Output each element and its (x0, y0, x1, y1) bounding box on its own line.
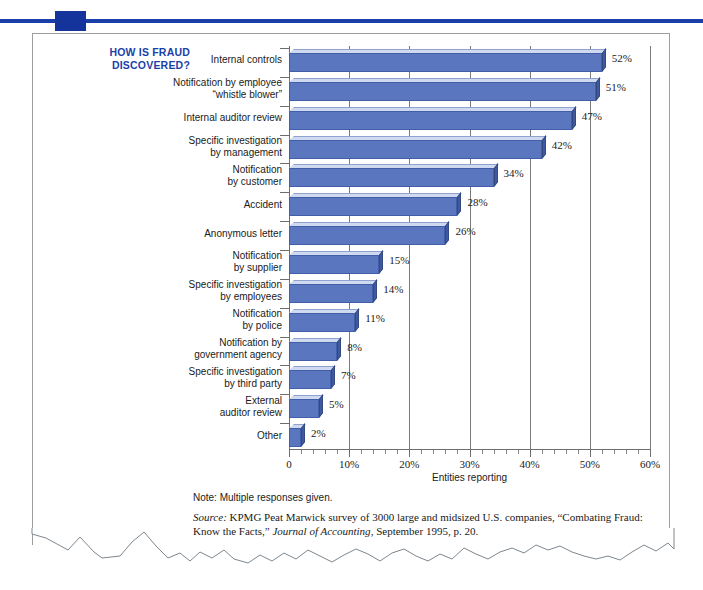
category-label: Internal controls (211, 54, 282, 66)
plot-area: 52%51%47%42%34%28%26%15%14%11%8%7%5%2% (289, 46, 650, 450)
category-tick (280, 48, 290, 49)
x-tick-major (409, 450, 410, 457)
category-label: Specific investigation by management (189, 135, 282, 159)
bar-value-label: 34% (504, 167, 524, 179)
category-label: Specific investigation by third party (189, 366, 282, 390)
bar-front-face (289, 53, 602, 72)
x-tick-minor (301, 450, 302, 454)
category-tick (280, 308, 290, 309)
category-label: Notification by customer (228, 164, 282, 188)
bar-front-face (289, 82, 596, 101)
bar (289, 424, 305, 447)
bar (289, 222, 449, 245)
bar-front-face (289, 370, 331, 389)
bar-side-face (494, 163, 498, 187)
bar-front-face (289, 399, 319, 418)
bar (289, 107, 576, 130)
bar-value-label: 5% (329, 398, 344, 410)
bar-front-face (289, 140, 542, 159)
bar (289, 280, 377, 303)
category-label: External auditor review (220, 395, 282, 419)
x-tick-major (349, 450, 350, 457)
bar-value-label: 8% (347, 341, 362, 353)
category-label: Other (257, 430, 282, 442)
x-tick-minor (554, 450, 555, 454)
bar (289, 338, 341, 361)
x-tick-minor (494, 450, 495, 454)
x-tick-minor (542, 450, 543, 454)
chart-source: Source: KPMG Peat Marwick survey of 3000… (193, 510, 653, 538)
x-axis-title: Entities reporting (289, 472, 650, 483)
bar-value-label: 2% (311, 427, 326, 439)
x-tick-minor (518, 450, 519, 454)
bar-side-face (373, 279, 377, 303)
x-axis: 010%20%30%40%50%60% (289, 450, 650, 490)
category-tick (280, 365, 290, 366)
bar-front-face (289, 197, 457, 216)
bar-front-face (289, 226, 445, 245)
category-tick (280, 423, 290, 424)
bar (289, 366, 335, 389)
x-tick-major (470, 450, 471, 457)
bar-side-face (602, 48, 606, 72)
source-text-2: , September 1995, p. 20. (371, 525, 479, 537)
bar (289, 136, 546, 159)
x-tick-minor (385, 450, 386, 454)
category-label: Notification by supplier (233, 250, 282, 274)
x-tick-label: 50% (580, 458, 600, 470)
bar-front-face (289, 313, 355, 332)
category-axis-labels: Internal controlsNotification by employe… (60, 46, 282, 450)
bar-side-face (337, 336, 341, 360)
bar-value-label: 52% (612, 52, 632, 64)
category-label: Internal auditor review (184, 112, 282, 124)
bar-side-face (319, 394, 323, 418)
category-label: Anonymous letter (204, 228, 282, 240)
bar-value-label: 47% (582, 110, 602, 122)
gridline (590, 46, 591, 450)
category-tick (280, 135, 290, 136)
bar (289, 193, 461, 216)
category-label: Specific investigation by employees (189, 279, 282, 303)
bar-value-label: 28% (467, 196, 487, 208)
x-tick-minor (325, 450, 326, 454)
x-tick-minor (433, 450, 434, 454)
category-tick (280, 192, 290, 193)
bar (289, 49, 606, 72)
bar-value-label: 7% (341, 369, 356, 381)
x-tick-minor (361, 450, 362, 454)
gridline (650, 46, 651, 450)
category-label: Accident (244, 199, 282, 211)
bar (289, 395, 323, 418)
bar (289, 251, 383, 274)
category-tick (280, 77, 290, 78)
category-tick (280, 394, 290, 395)
category-tick (280, 221, 290, 222)
bar (289, 164, 498, 187)
x-tick-label: 60% (640, 458, 660, 470)
bar-side-face (572, 106, 576, 130)
bar-front-face (289, 284, 373, 303)
header-rule (0, 19, 703, 23)
bar-value-label: 14% (383, 283, 403, 295)
x-tick-minor (626, 450, 627, 454)
bar-value-label: 26% (455, 225, 475, 237)
category-tick (280, 279, 290, 280)
x-tick-label: 40% (520, 458, 540, 470)
x-tick-minor (506, 450, 507, 454)
category-tick (280, 250, 290, 251)
category-tick (280, 163, 290, 164)
bar-side-face (596, 77, 600, 101)
x-tick-major (650, 450, 651, 457)
category-label: Notification by employee “whistle blower… (173, 77, 282, 101)
category-tick (280, 337, 290, 338)
bar-front-face (289, 111, 572, 130)
source-label: Source: (193, 511, 227, 523)
bar (289, 309, 359, 332)
x-tick-major (590, 450, 591, 457)
x-tick-major (289, 450, 290, 457)
bar-side-face (457, 192, 461, 216)
x-tick-minor (482, 450, 483, 454)
bar-side-face (301, 423, 305, 447)
x-tick-label: 0 (286, 458, 292, 470)
x-tick-minor (397, 450, 398, 454)
